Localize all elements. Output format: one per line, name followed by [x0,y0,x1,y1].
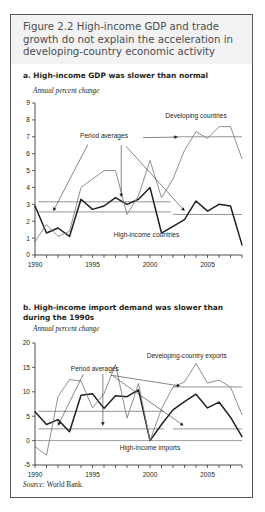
y-tick-label: 1 [26,235,30,242]
source-label: Source: [23,481,45,489]
x-tick-label: 2005 [200,471,215,478]
chart-b-svg: -5051015201990199520002005Developing-cou… [11,333,254,501]
x-tick-label: 1995 [85,261,100,268]
annotation-arrowhead [174,135,177,139]
y-tick-label: 6 [26,150,30,157]
y-tick-label: 5 [26,413,30,420]
source-value: World Bank. [45,481,83,489]
y-tick-label: 5 [26,167,30,174]
chart-a-svg: 01234567891990199520002005Developing cou… [11,95,254,291]
x-tick-label: 2005 [200,261,215,268]
y-tick-label: 3 [26,201,30,208]
panel-a-heading: a. High-income GDP was slower than norma… [23,71,243,81]
x-tick-label: 1990 [28,471,43,478]
x-tick-label: 1995 [85,471,100,478]
y-tick-label: 0 [26,251,30,258]
series-line [35,127,242,242]
x-tick-label: 2000 [143,261,158,268]
y-tick-label: 7 [26,133,30,140]
annotation-arrowhead [101,422,105,425]
series-annotation: High-income imports [120,444,181,452]
series-annotation: Developing-country exports [147,352,228,360]
y-tick-label: 15 [23,364,31,371]
y-tick-label: -5 [24,461,30,468]
source-note: Source: World Bank. [23,481,83,489]
y-tick-label: 4 [26,184,30,191]
y-tick-label: 9 [26,99,30,106]
y-tick-label: 2 [26,218,30,225]
y-tick-label: 20 [23,339,31,346]
y-tick-label: 10 [23,388,31,395]
series-line [35,390,242,441]
series-annotation: High-income countries [114,231,180,239]
chart-panel-b: -5051015201990199520002005Developing-cou… [11,333,254,501]
panel-b-heading: b. High-income import demand was slower … [23,303,243,322]
y-tick-label: 8 [26,116,30,123]
figure-title: Figure 2.2 High-income GDP and trade gro… [23,21,238,59]
y-tick-label: 0 [26,437,30,444]
panel-a-axis-caption: Annual percent change [33,87,99,95]
annotation-leader [143,137,178,138]
annotation-arrowhead [180,422,184,425]
figure-container: Figure 2.2 High-income GDP and trade gro… [10,14,253,498]
x-tick-label: 2000 [143,471,158,478]
series-annotation: Period averages [80,132,129,140]
series-annotation: Developing countries [165,112,227,120]
panel-b-axis-caption: Annual percent change [33,325,99,333]
chart-panel-a: 01234567891990199520002005Developing cou… [11,95,254,291]
annotation-leader [111,375,180,386]
series-annotation: Period averages [71,365,120,373]
x-tick-label: 1990 [28,261,43,268]
